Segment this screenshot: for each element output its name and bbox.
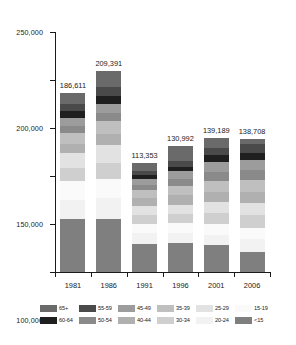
chart-legend: 65+55-5945-4935-3925-2915-1960-6450-5440… [40,303,272,325]
legend-swatch-<15 [235,317,252,324]
bar-segment-40-44 [60,144,85,153]
bar-segment-20-24 [96,198,121,219]
bar-segment-15-19 [240,228,265,239]
legend-item-40-44[interactable]: 40-44 [118,315,155,325]
legend-swatch-55-59 [79,305,96,312]
legend-swatch-35-39 [157,305,174,312]
bar-2001 [204,138,229,272]
bar-segment-30-34 [132,215,157,224]
bar-segment-15-19 [168,223,193,233]
bar-segment-35-39 [60,133,85,144]
bar-1986 [96,71,121,272]
bar-segment-25-29 [168,205,193,214]
x-axis-label-1996: 1996 [172,281,188,290]
legend-label: 50-54 [98,317,112,323]
legend-item-55-59[interactable]: 55-59 [79,303,116,313]
legend-label: 30-34 [176,317,190,323]
bar-segment-50-54 [204,172,229,181]
y-axis-tick: 50,000 [50,224,56,225]
bar-segment-65+ [204,138,229,148]
bar-segment-60-64 [60,111,85,118]
bar-2006 [240,139,265,272]
bar-segment-20-24 [168,233,193,243]
bar-segment-45-49 [168,171,193,179]
bar-segment-<15 [204,245,229,272]
legend-label: 55-59 [98,305,112,311]
bar-value-label: 209,391 [95,59,122,68]
bar-segment-30-34 [240,215,265,227]
bar-segment-35-39 [168,186,193,195]
bar-segment-20-24 [204,235,229,246]
legend-swatch-60-64 [40,317,57,324]
x-axis-tick [127,272,128,277]
bar-segment-65+ [60,93,85,104]
legend-label: 65+ [59,305,68,311]
legend-item-65+[interactable]: 65+ [40,303,77,313]
bar-segment-<15 [132,244,157,272]
bar-value-label: 113,353 [131,151,157,160]
legend-label: <15 [254,317,263,323]
x-axis-tick [270,272,271,277]
bar-segment-30-34 [168,214,193,223]
x-axis-tick [55,272,56,277]
bar-segment-55-59 [204,148,229,155]
bar-segment-40-44 [96,134,121,145]
bar-segment-55-59 [60,104,85,111]
legend-item-30-34[interactable]: 30-34 [157,315,194,325]
legend-swatch-50-54 [79,317,96,324]
legend-item-25-29[interactable]: 25-29 [196,303,233,313]
x-axis-label-1991: 1991 [136,281,152,290]
legend-item-15-19[interactable]: 15-19 [235,303,272,313]
bar-segment-25-29 [96,145,121,163]
legend-item-60-64[interactable]: 60-64 [40,315,77,325]
legend-swatch-45-49 [118,305,135,312]
bar-segment-20-24 [132,233,157,244]
legend-label: 35-39 [176,305,190,311]
legend-item-45-49[interactable]: 45-49 [118,303,155,313]
bar-segment-50-54 [60,126,85,133]
y-axis-tick-label: 100,000 [16,316,43,325]
legend-item-<15[interactable]: <15 [235,315,272,325]
bar-segment-45-49 [204,162,229,172]
x-axis-label-1986: 1986 [101,281,117,290]
bar-segment-25-29 [204,202,229,213]
legend-label: 45-49 [137,305,151,311]
x-axis-tick [198,272,199,277]
bar-segment-15-19 [96,179,121,197]
x-axis-label-2001: 2001 [208,281,224,290]
y-axis-tick: 250,000 [50,32,56,33]
bar-segment-45-49 [240,160,265,171]
bar-segment-<15 [168,243,193,272]
x-axis-label-1981: 1981 [65,281,81,290]
bar-segment-60-64 [240,153,265,160]
legend-item-20-24[interactable]: 20-24 [196,315,233,325]
bar-segment-45-49 [96,104,121,113]
bar-segment-<15 [240,252,265,272]
stacked-bar-chart: 050,000100,000150,000200,000250,000 186,… [0,0,296,345]
y-axis-tick: 100,000 [50,176,56,177]
bar-segment-<15 [60,219,85,272]
plot-area: 050,000100,000150,000200,000250,000 186,… [55,32,270,272]
legend-label: 60-64 [59,317,73,323]
legend-swatch-20-24 [196,317,213,324]
bar-value-label: 138,708 [239,127,266,136]
bar-segment-65+ [96,71,121,87]
x-axis-label-2006: 2006 [244,281,260,290]
y-axis-line [55,32,56,272]
y-axis-tick-label: 200,000 [16,124,43,133]
legend-label: 40-44 [137,317,151,323]
legend-swatch-40-44 [118,317,135,324]
bar-segment-50-54 [96,113,121,121]
bar-segment-65+ [132,163,157,171]
legend-item-50-54[interactable]: 50-54 [79,315,116,325]
legend-item-35-39[interactable]: 35-39 [157,303,194,313]
bar-segment-35-39 [132,190,157,198]
legend-swatch-65+ [40,305,57,312]
bar-segment-35-39 [240,180,265,192]
bar-segment-25-29 [60,153,85,168]
bar-segment-50-54 [240,170,265,180]
bar-segment-30-34 [204,213,229,224]
bar-value-label: 139,189 [203,126,230,135]
bar-segment-15-19 [60,181,85,200]
x-axis-tick [234,272,235,277]
